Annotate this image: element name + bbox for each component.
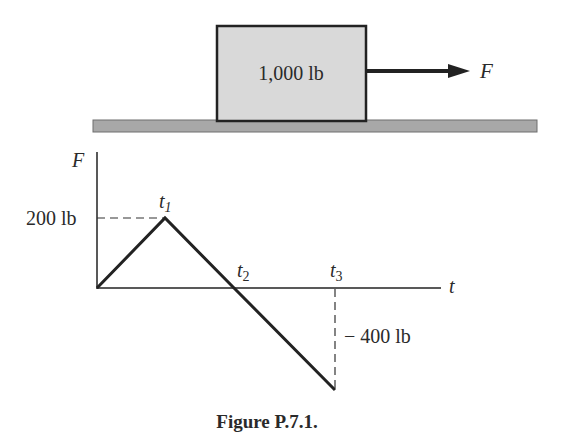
x-axis-label: t [449,275,455,297]
t1-label: t1 [159,190,172,215]
t2-label: t2 [237,259,250,284]
chart: F t 200 lb − 400 lb t1 t2 t3 [26,149,455,390]
block-weight-label: 1,000 lb [258,62,324,84]
force-curve [97,218,335,390]
t3-label: t3 [330,259,343,284]
figure: 1,000 lb F F t 200 lb − 400 lb t1 t2 t3 … [0,0,565,435]
peak-value-label: 200 lb [26,207,77,229]
figure-caption: Figure P.7.1. [216,411,317,432]
force-label: F [479,59,493,83]
min-value-label: − 400 lb [344,325,411,347]
force-arrow-icon [366,64,470,78]
y-axis-label: F [71,149,85,171]
